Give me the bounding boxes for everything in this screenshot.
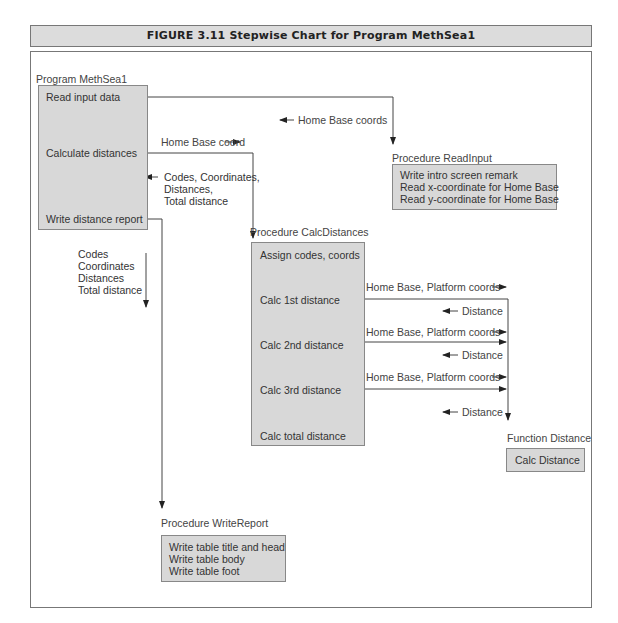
flow-distance-3: Distance — [462, 406, 503, 418]
step-calculate-distances: Calculate distances — [46, 147, 137, 159]
flow-home-base-coords: Home Base coords — [298, 114, 387, 126]
flow-home-base-coord: Home Base coord — [161, 136, 245, 148]
main-program-label: Program MethSea1 — [36, 73, 127, 85]
step-calc-3rd: Calc 3rd distance — [260, 384, 341, 396]
flow-hb-platform-1: Home Base, Platform coords — [366, 281, 500, 293]
write-report-lines: Write table title and head Write table b… — [169, 541, 285, 577]
step-write-report: Write distance report — [46, 213, 143, 225]
read-input-lines: Write intro screen remark Read x-coordin… — [400, 169, 559, 205]
step-assign-codes: Assign codes, coords — [260, 249, 360, 261]
step-calc-distance: Calc Distance — [515, 454, 580, 466]
step-calc-2nd: Calc 2nd distance — [260, 339, 343, 351]
flow-hb-platform-3: Home Base, Platform coords — [366, 371, 500, 383]
calc-distances-label: Procedure CalcDistances — [250, 226, 368, 238]
flow-codes-return: Codes, Coordinates, Distances, Total dis… — [164, 171, 260, 207]
flow-report-params: Codes Coordinates Distances Total distan… — [78, 248, 142, 296]
step-read-input: Read input data — [46, 91, 120, 103]
read-input-label: Procedure ReadInput — [392, 152, 492, 164]
flow-distance-1: Distance — [462, 305, 503, 317]
step-calc-total: Calc total distance — [260, 430, 346, 442]
write-report-label: Procedure WriteReport — [161, 517, 268, 529]
flow-distance-2: Distance — [462, 349, 503, 361]
step-calc-1st: Calc 1st distance — [260, 294, 340, 306]
function-distance-label: Function Distance — [507, 432, 591, 444]
flow-hb-platform-2: Home Base, Platform coords — [366, 326, 500, 338]
